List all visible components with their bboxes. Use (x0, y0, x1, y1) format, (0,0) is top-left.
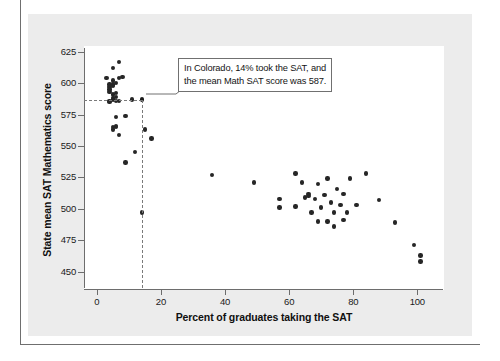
y-tick-label-wrap: 450 (30, 266, 76, 278)
colorado-annotation-callout: In Colorado, 14% took the SAT, and the m… (178, 58, 332, 92)
y-tick-label-wrap: 575 (30, 109, 76, 121)
x-tick-label: 20 (141, 296, 181, 307)
x-tick-mark (289, 290, 290, 295)
annotation-line-1: In Colorado, 14% took the SAT, and (184, 62, 326, 75)
data-point (277, 205, 281, 209)
data-point (252, 180, 256, 184)
x-tick-mark (225, 290, 226, 295)
y-tick-label-wrap: 625 (30, 46, 76, 58)
data-point (277, 197, 281, 201)
annotation-line-2: the mean Math SAT score was 587. (184, 75, 326, 88)
x-tick-mark (417, 290, 418, 295)
data-point (329, 200, 333, 204)
data-point (332, 224, 336, 228)
page-bottom-rule (20, 344, 480, 345)
data-point (316, 219, 320, 223)
data-point (418, 259, 422, 263)
data-point (345, 210, 349, 214)
y-tick-label-wrap: 600 (30, 77, 76, 89)
data-point (325, 219, 329, 223)
scatter-plot-figure: 450475500525550575600625 020406080100 In… (0, 0, 500, 361)
y-tick-mark (78, 83, 84, 84)
y-tick-label-wrap: 550 (30, 140, 76, 152)
data-point (293, 204, 297, 208)
y-axis-line (84, 48, 85, 288)
x-tick-label: 0 (77, 296, 117, 307)
x-tick-mark (161, 290, 162, 295)
data-point (123, 114, 127, 118)
data-point (143, 127, 147, 131)
data-point (149, 136, 153, 140)
x-axis-line (84, 289, 443, 290)
x-tick-label: 100 (397, 296, 437, 307)
y-tick-mark (78, 177, 84, 178)
vertical-reference-line (142, 100, 143, 288)
data-point (313, 197, 317, 201)
y-tick-mark (78, 52, 84, 53)
data-point (316, 182, 320, 186)
x-tick-mark (353, 290, 354, 295)
data-point (364, 171, 368, 175)
data-point (322, 193, 326, 197)
data-point (300, 180, 304, 184)
data-point (354, 203, 358, 207)
data-point (348, 176, 352, 180)
data-point (309, 210, 313, 214)
page-left-rule (20, 0, 21, 345)
y-axis-title: State mean SAT Mathematics score (41, 45, 53, 295)
y-tick-mark (78, 240, 84, 241)
data-point (104, 76, 108, 80)
data-point (418, 253, 422, 257)
data-point (325, 176, 329, 180)
y-tick-label-wrap: 475 (30, 234, 76, 246)
x-tick-label: 40 (205, 296, 245, 307)
x-tick-label: 80 (333, 296, 373, 307)
y-tick-mark (78, 146, 84, 147)
y-tick-mark (78, 209, 84, 210)
data-point (341, 192, 345, 196)
data-point (338, 203, 342, 207)
data-point (123, 160, 127, 164)
data-point (332, 210, 336, 214)
y-tick-mark (78, 115, 84, 116)
x-tick-mark (97, 290, 98, 295)
data-point (393, 220, 397, 224)
data-point (293, 171, 297, 175)
data-point (120, 75, 124, 79)
y-tick-label-wrap: 500 (30, 203, 76, 215)
horizontal-reference-line (84, 100, 142, 101)
y-tick-mark (78, 272, 84, 273)
y-tick-label-wrap: 525 (30, 171, 76, 183)
x-axis-title: Percent of graduates taking the SAT (84, 311, 444, 323)
x-tick-label: 60 (269, 296, 309, 307)
